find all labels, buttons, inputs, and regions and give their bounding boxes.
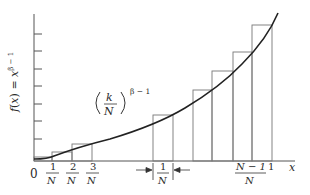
svg-text:2: 2 [70, 161, 76, 172]
svg-text:3: 3 [90, 161, 96, 172]
tick-2-over-N: 2 N [66, 161, 79, 186]
svg-text:k: k [106, 91, 113, 104]
annotation-k-over-N: k N β − 1 [96, 87, 150, 118]
tick-3-over-N: 3 N [86, 161, 99, 186]
svg-text:N: N [66, 175, 77, 186]
bars [34, 25, 272, 161]
y-ticks [34, 34, 42, 139]
svg-text:N: N [46, 175, 57, 186]
origin-label: 0 [30, 167, 38, 181]
y-axis-label: f(x) = xβ − 1 [7, 52, 21, 113]
one-label: 1 [268, 161, 274, 172]
svg-text:N: N [86, 175, 97, 186]
bar-7 [212, 71, 233, 161]
svg-text:N: N [244, 175, 255, 186]
riemann-sum-figure: f(x) = xβ − 1 0 1 N 2 N 3 N N − 1 N 1 x … [0, 0, 310, 195]
svg-text:1: 1 [50, 161, 56, 172]
bar-9 [252, 25, 272, 161]
svg-text:N: N [157, 175, 168, 186]
curve-f [34, 13, 278, 159]
x-axis-label: x [289, 161, 296, 174]
tick-1-over-N: 1 N [46, 161, 59, 186]
width-marker-label: 1 N [157, 161, 169, 186]
svg-text:N: N [103, 105, 114, 118]
tick-N-minus-1-over-N: N − 1 N [235, 161, 266, 186]
svg-text:β − 1: β − 1 [130, 87, 150, 96]
svg-text:N − 1: N − 1 [235, 161, 266, 172]
svg-text:1: 1 [160, 161, 166, 172]
bar-8 [233, 52, 252, 161]
svg-text:f(x) = xβ − 1: f(x) = xβ − 1 [7, 52, 21, 113]
